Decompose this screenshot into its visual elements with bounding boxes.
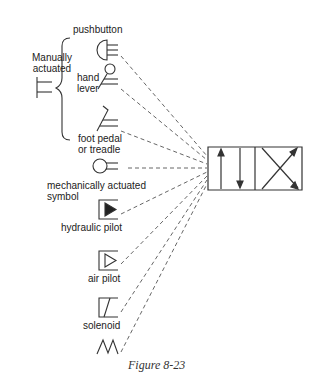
hand-lever-icon [98, 64, 118, 89]
label-air-pilot: air pilot [88, 273, 120, 284]
label-mechanical-line2: symbol [47, 191, 146, 202]
manual-generic-icon [37, 77, 52, 98]
label-pushbutton: pushbutton [73, 24, 123, 35]
label-solenoid: solenoid [83, 320, 120, 331]
label-foot-pedal-line1: foot pedal [78, 133, 122, 144]
group-label-line2: actuated [23, 63, 81, 74]
solenoid-icon [99, 298, 118, 317]
label-foot-pedal-line2: or treadle [78, 144, 122, 155]
label-hydraulic-pilot: hydraulic pilot [61, 222, 122, 233]
figure-caption: Figure 8-23 [128, 358, 185, 373]
air-pilot-icon [99, 251, 118, 270]
pushbutton-icon [97, 40, 118, 60]
label-mechanical: mechanically actuated symbol [47, 180, 146, 202]
label-foot-pedal: foot pedal or treadle [78, 133, 122, 155]
directional-valve-icon [208, 147, 302, 190]
group-label-line1: Manually [23, 52, 81, 63]
hydraulic-pilot-icon [99, 200, 118, 219]
foot-pedal-icon [97, 106, 118, 131]
spring-icon [97, 340, 118, 354]
label-mechanical-line1: mechanically actuated [47, 180, 146, 191]
group-label: Manually actuated [23, 52, 81, 74]
leader-lines [121, 56, 207, 352]
label-hand-lever: hand lever [77, 72, 99, 94]
label-hand-lever-line2: lever [77, 83, 99, 94]
label-hand-lever-line1: hand [77, 72, 99, 83]
mechanical-actuator-icon [93, 159, 118, 173]
